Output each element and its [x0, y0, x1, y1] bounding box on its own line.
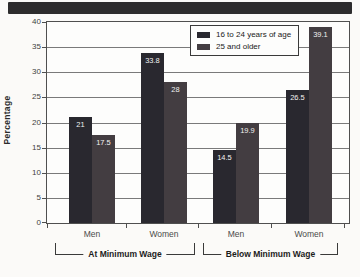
- bar-16-to-24-years-of-age: 26.5: [286, 90, 309, 223]
- group-bracket-label: At Minimum Wage: [83, 249, 166, 260]
- bar-value-label: 33.8: [141, 56, 164, 65]
- legend-label: 16 to 24 years of age: [216, 30, 291, 40]
- bar-25-and-older: 19.9: [236, 123, 259, 223]
- y-tick: [42, 72, 47, 73]
- bar-value-label: 39.1: [309, 30, 332, 39]
- bar-25-and-older: 39.1: [309, 27, 332, 223]
- legend: 16 to 24 years of age25 and older: [190, 25, 299, 56]
- y-tick: [42, 198, 47, 199]
- bar-16-to-24-years-of-age: 33.8: [141, 53, 164, 223]
- bar-value-label: 26.5: [286, 93, 309, 102]
- bar-value-label: 17.5: [92, 138, 115, 147]
- legend-swatch-icon: [197, 44, 210, 50]
- gridline: [47, 72, 349, 73]
- y-tick-label: 0: [21, 218, 41, 228]
- y-tick-label: 5: [21, 193, 41, 203]
- bar-25-and-older: 28: [164, 82, 187, 223]
- y-tick-label: 10: [21, 168, 41, 178]
- y-tick-label: 30: [21, 67, 41, 77]
- y-tick: [42, 22, 47, 23]
- x-tick: [47, 223, 48, 228]
- legend-swatch-icon: [197, 32, 210, 38]
- legend-row: 25 and older: [197, 41, 298, 53]
- x-tick: [344, 223, 345, 228]
- x-tick: [126, 223, 127, 228]
- group-bracket: Below Minimum Wage: [203, 243, 338, 255]
- y-tick-label: 40: [21, 17, 41, 27]
- y-axis-title: Percentage: [2, 85, 14, 155]
- y-tick: [42, 47, 47, 48]
- minimum-wage-bar-chart-figure: Percentage 05101520253035402133.814.526.…: [0, 0, 360, 277]
- bar-value-label: 14.5: [213, 153, 236, 162]
- x-tick: [271, 223, 272, 228]
- legend-label: 25 and older: [216, 42, 260, 52]
- top-banner-bar: [8, 2, 352, 14]
- y-tick-label: 25: [21, 92, 41, 102]
- x-tick: [198, 223, 199, 228]
- y-tick: [42, 148, 47, 149]
- y-tick-label: 20: [21, 118, 41, 128]
- y-tick-label: 15: [21, 143, 41, 153]
- bar-25-and-older: 17.5: [92, 135, 115, 223]
- category-label: Men: [208, 229, 264, 239]
- group-bracket-label: Below Minimum Wage: [221, 249, 320, 260]
- bar-16-to-24-years-of-age: 21: [69, 117, 92, 223]
- category-label: Women: [136, 229, 192, 239]
- bar-value-label: 21: [69, 120, 92, 129]
- y-tick-label: 35: [21, 42, 41, 52]
- legend-row: 16 to 24 years of age: [197, 29, 298, 41]
- y-tick: [42, 173, 47, 174]
- bar-value-label: 19.9: [236, 126, 259, 135]
- bar-16-to-24-years-of-age: 14.5: [213, 150, 236, 223]
- group-bracket: At Minimum Wage: [55, 243, 195, 255]
- category-label: Women: [281, 229, 337, 239]
- category-label: Men: [64, 229, 120, 239]
- y-tick: [42, 97, 47, 98]
- y-tick: [42, 123, 47, 124]
- bar-value-label: 28: [164, 85, 187, 94]
